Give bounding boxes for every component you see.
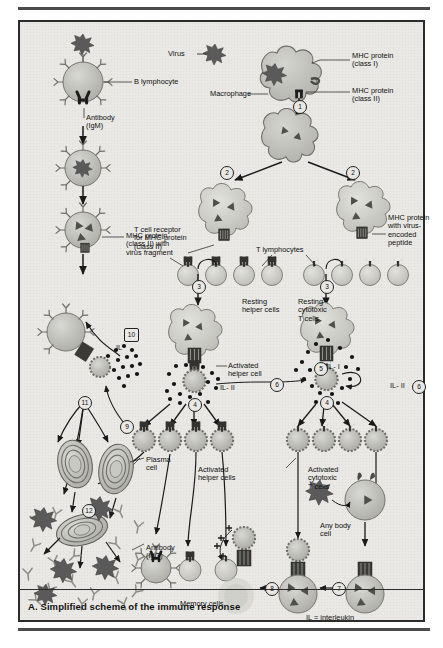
step-marker-10: 10 xyxy=(124,328,139,342)
step-marker-11: 11 xyxy=(78,396,92,410)
label-antibody-igg: Antibody (IgG) xyxy=(146,544,175,561)
label-il-interleukin-footnote: IL = interleukin xyxy=(306,614,354,622)
step-marker-2a: 2 xyxy=(220,166,234,180)
step-marker-1: 1 xyxy=(293,100,307,114)
bottom-rule xyxy=(18,628,430,631)
step-marker-5: 5 xyxy=(314,362,328,376)
step-marker-3b: 3 xyxy=(320,280,334,294)
step-marker-9: 9 xyxy=(120,420,134,434)
label-antibody-igm: Antibody (IgM) xyxy=(86,114,115,131)
label-activated-cytotoxic-t-cells: Activated cytotoxic T cells xyxy=(308,466,338,491)
label-il-1: IL- I xyxy=(327,363,340,371)
label-t-cell-receptor: T cell receptor for MHC-protein (class I… xyxy=(134,226,187,251)
step-marker-6-cytotoxic: 6 xyxy=(412,380,426,394)
label-il-2-helper: IL- II xyxy=(220,384,235,392)
immune-response-figure-panel: Virus B lymphocyte Antibody (IgM) Macrop… xyxy=(18,20,425,622)
label-mhc-virus-peptide: MHC protein with virus- encoded peptide xyxy=(388,214,429,248)
label-activated-helper-cells: Activated helper cells xyxy=(198,466,235,483)
figure-stage: Virus B lymphocyte Antibody (IgM) Macrop… xyxy=(0,0,443,648)
label-resting-cytotoxic-t-cells: Resting cytotoxic T cells xyxy=(298,298,327,323)
label-activated-helper-cell: Activated helper cell xyxy=(228,362,262,379)
figure-caption: A. Simplified scheme of the immune respo… xyxy=(28,601,240,612)
label-mhc-class-ii: MHC protein (class II) xyxy=(352,87,393,104)
label-virus: Virus xyxy=(168,50,185,58)
label-b-lymphocyte: B lymphocyte xyxy=(134,78,178,86)
step-marker-4a: 4 xyxy=(188,398,202,412)
step-marker-12: 12 xyxy=(82,504,96,518)
step-marker-6-helper: 6 xyxy=(270,378,284,392)
label-mhc-class-i: MHC protein (class I) xyxy=(352,52,393,69)
caption-divider xyxy=(20,589,423,590)
top-rule xyxy=(18,7,430,10)
step-marker-4b: 4 xyxy=(320,396,334,410)
label-t-lymphocytes: T lymphocytes xyxy=(256,246,304,254)
step-marker-2b: 2 xyxy=(346,166,360,180)
step-marker-3a: 3 xyxy=(192,280,206,294)
label-any-body-cell: Any body cell xyxy=(320,522,351,539)
label-il-2-right: IL- II xyxy=(390,382,405,390)
label-macrophage: Macrophage xyxy=(210,90,251,98)
immune-response-diagram xyxy=(20,22,423,620)
label-resting-helper-cells: Resting helper cells xyxy=(242,298,279,315)
label-il-near-marker-10: IL xyxy=(116,344,122,352)
label-plasma-cell: Plasma cell xyxy=(146,456,171,473)
